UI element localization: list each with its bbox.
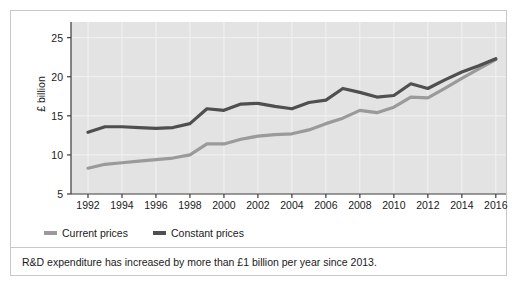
legend-item-constant-prices[interactable]: Constant prices (153, 227, 244, 239)
y-tick-label: 15 (37, 111, 63, 121)
plot-area (71, 22, 506, 194)
y-axis-title: £ billion (35, 51, 47, 137)
legend-label: Current prices (62, 227, 128, 239)
plot-svg (71, 22, 506, 194)
legend-item-current-prices[interactable]: Current prices (44, 227, 128, 239)
legend-swatch-icon (44, 231, 57, 235)
y-tick-label: 20 (37, 72, 63, 82)
figure-card: £ billion 510152025 19921994199619982000… (10, 10, 507, 276)
legend-label: Constant prices (171, 227, 244, 239)
caption-divider (11, 247, 506, 248)
line-chart: £ billion 510152025 19921994199619982000… (11, 11, 506, 224)
y-tick-label: 25 (37, 33, 63, 43)
legend-swatch-icon (153, 231, 166, 235)
chart-caption: R&D expenditure has increased by more th… (22, 256, 492, 269)
y-tick-label: 5 (37, 189, 63, 199)
y-tick-label: 10 (37, 150, 63, 160)
x-tick-label: 2016 (476, 200, 516, 211)
chart-legend: Current pricesConstant prices (11, 225, 506, 245)
